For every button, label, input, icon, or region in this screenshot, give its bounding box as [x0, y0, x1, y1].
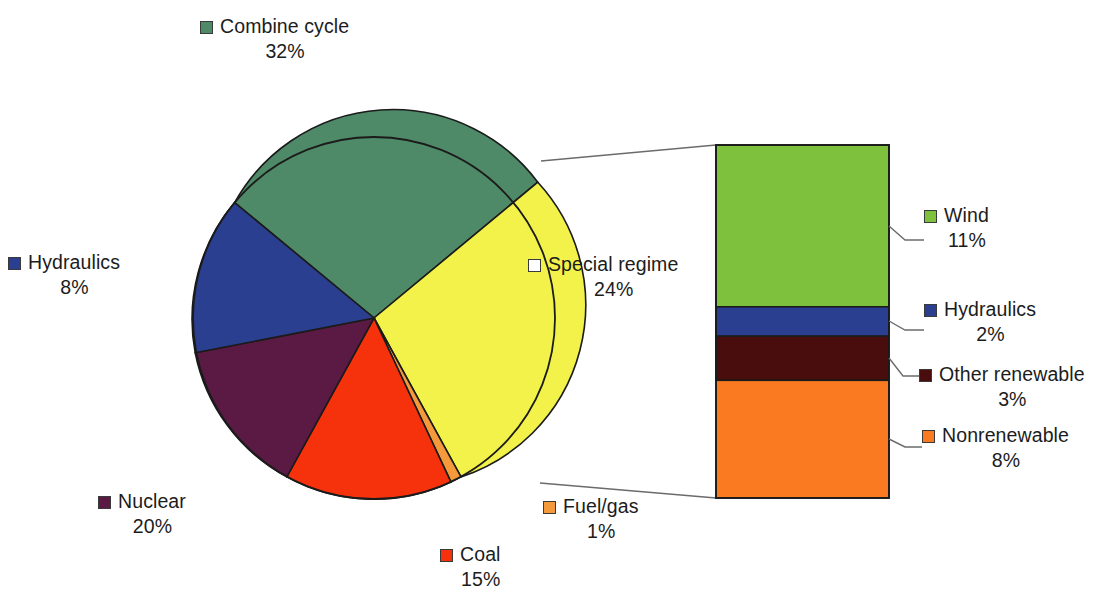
other-renewable-swatch-icon: [919, 369, 932, 382]
leader-line-wind: [889, 226, 924, 240]
pie-label-hydraulics: Hydraulics 8%: [8, 250, 120, 300]
leader-line-top: [541, 145, 716, 161]
pie-label-nuclear-row: Nuclear: [98, 489, 186, 514]
coal-label: Coal: [460, 542, 501, 567]
fuel-gas-label: Fuel/gas: [563, 494, 639, 519]
pie-label-coal: Coal 15%: [440, 542, 501, 592]
nuclear-label: Nuclear: [118, 489, 186, 514]
bar-hydraulics-value: 2%: [924, 322, 1036, 347]
bar-hydraulics-swatch-icon: [924, 304, 937, 317]
bar-label-wind: Wind 11%: [924, 203, 989, 253]
bar-label-other-renewable: Other renewable 3%: [919, 362, 1085, 412]
bar-label-hydraulics-row: Hydraulics: [924, 297, 1036, 322]
pie-label-coal-row: Coal: [440, 542, 501, 567]
leader-line-nonrenewable: [889, 439, 922, 447]
pie-label-combine-cycle-row: Combine cycle: [200, 14, 349, 39]
nonrenewable-value: 8%: [922, 448, 1069, 473]
pie-label-fuel-gas: Fuel/gas 1%: [543, 494, 639, 544]
nonrenewable-swatch-icon: [922, 430, 935, 443]
leader-line-other-renewable: [889, 358, 919, 376]
bar-segment-wind[interactable]: [716, 145, 889, 307]
combine-cycle-label: Combine cycle: [220, 14, 349, 39]
leader-line-hydraulics: [889, 321, 924, 330]
nuclear-value: 20%: [98, 514, 186, 539]
pie-chart: [192, 110, 586, 500]
combine-cycle-swatch-icon: [200, 21, 213, 34]
wind-label: Wind: [944, 203, 989, 228]
pie-label-nuclear: Nuclear 20%: [98, 489, 186, 539]
special-regime-label: Special regime: [548, 252, 678, 277]
combine-cycle-value: 32%: [200, 39, 349, 64]
bar-label-nonrenewable: Nonrenewable 8%: [922, 423, 1069, 473]
bar-segment-other-renewable[interactable]: [716, 336, 889, 380]
bar-hydraulics-label: Hydraulics: [944, 297, 1036, 322]
pie-label-fuel-gas-row: Fuel/gas: [543, 494, 639, 519]
wind-swatch-icon: [924, 210, 937, 223]
hydraulics-label: Hydraulics: [28, 250, 120, 275]
bar-label-nonrenewable-row: Nonrenewable: [922, 423, 1069, 448]
bar-segment-hydraulics[interactable]: [716, 307, 889, 336]
other-renewable-value: 3%: [919, 387, 1085, 412]
nuclear-swatch-icon: [98, 496, 111, 509]
fuel-gas-value: 1%: [543, 519, 639, 544]
coal-swatch-icon: [440, 549, 453, 562]
hydraulics-value: 8%: [8, 275, 120, 300]
pie-label-combine-cycle: Combine cycle 32%: [200, 14, 349, 64]
pie-label-hydraulics-row: Hydraulics: [8, 250, 120, 275]
breakout-stacked-bar: [716, 145, 889, 498]
bar-label-wind-row: Wind: [924, 203, 989, 228]
fuel-gas-swatch-icon: [543, 501, 556, 514]
bar-label-hydraulics: Hydraulics 2%: [924, 297, 1036, 347]
nonrenewable-label: Nonrenewable: [942, 423, 1069, 448]
chart-figure: Combine cycle 32% Hydraulics 8% Nuclear …: [0, 0, 1118, 612]
bar-label-leader-lines: [889, 226, 924, 447]
pie-label-special-regime-row: Special regime: [528, 252, 678, 277]
other-renewable-label: Other renewable: [939, 362, 1085, 387]
wind-value: 11%: [924, 228, 989, 253]
pie-label-special-regime: Special regime 24%: [528, 252, 678, 302]
bar-segment-nonrenewable[interactable]: [716, 380, 889, 498]
special-regime-swatch-icon: [528, 259, 541, 272]
hydraulics-swatch-icon: [8, 257, 21, 270]
coal-value: 15%: [440, 567, 501, 592]
special-regime-value: 24%: [528, 277, 678, 302]
bar-label-other-renewable-row: Other renewable: [919, 362, 1085, 387]
